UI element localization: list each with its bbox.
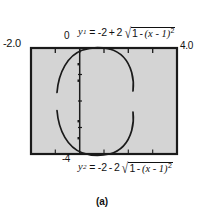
equation-y1-operator: +	[109, 27, 115, 38]
x-max-label: 4.0	[180, 41, 193, 51]
plot-background	[31, 48, 177, 154]
equation-y1-radicand-exp: 2	[170, 27, 174, 34]
equation-y1-radical: √1-(x - 1)2	[123, 26, 176, 39]
equation-y1-term1: -2	[98, 27, 107, 38]
equation-y1-subscript: 1	[83, 29, 87, 36]
equation-y2-radicand-exp: 2	[168, 162, 172, 169]
equation-y2-radical: √1-(x - 1)2	[120, 161, 173, 174]
equation-y1-radicand-b: (x - 1)	[145, 28, 171, 39]
equation-y1: y1=-2+2√1-(x - 1)2	[78, 26, 175, 39]
equation-y2-radicand-a: 1	[129, 162, 135, 174]
equation-y2-term1: -2	[98, 162, 107, 173]
equation-y2-radicand-b: (x - 1)	[142, 163, 168, 174]
equation-y2-radicand-op: -	[137, 162, 141, 174]
equation-y2-coefficient: 2	[114, 162, 120, 173]
equation-y1-radicand-a: 1	[132, 27, 138, 39]
equation-y1-coefficient: 2	[117, 27, 123, 38]
y-max-label: 0	[64, 31, 70, 41]
figure-caption: (a)	[0, 196, 204, 207]
equation-y2-equals: =	[89, 162, 95, 173]
y-min-label: -4	[62, 154, 70, 164]
equation-y1-equals: =	[89, 27, 95, 38]
equation-y1-radicand-op: -	[140, 27, 144, 39]
equation-y2-subscript: 2	[83, 164, 87, 171]
equation-y2-operator: -	[109, 162, 113, 173]
x-min-label: -2.0	[3, 38, 21, 49]
figure-container: -2.0 4.0 0 -4 y1=-2+2√1-(x - 1)2 y2=-2-2…	[0, 0, 204, 216]
equation-y2: y2=-2-2√1-(x - 1)2	[78, 161, 173, 174]
